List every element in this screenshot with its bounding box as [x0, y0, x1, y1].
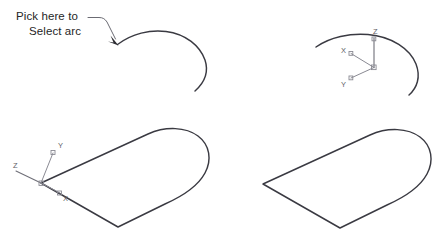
callout-leader-group: [88, 18, 119, 46]
ucs-z-axis-line-bl: [16, 171, 41, 183]
diagram-canvas: Pick here to Select arc X Y Z Y Z X: [0, 0, 444, 245]
callout-line-2: Select arc: [29, 24, 81, 38]
ucs-icon-bottom-left[interactable]: [16, 151, 62, 196]
top-left-arc-group: [118, 31, 207, 91]
open-arc-top-right[interactable]: [316, 34, 418, 95]
bottom-right-profile-group: [263, 130, 431, 228]
ucs-label-z-top-right: Z: [373, 27, 378, 36]
callout-line-1: Pick here to: [16, 9, 78, 23]
top-right-arc-group: [316, 34, 418, 95]
ucs-label-x-bottom-left: X: [63, 194, 68, 203]
ucs-x-axis-line-tr: [351, 54, 374, 68]
bottom-left-profile-group: [41, 129, 209, 227]
closed-profile-bottom-right[interactable]: [263, 130, 431, 228]
ucs-label-y-bottom-left: Y: [58, 141, 63, 150]
callout-leader-line: [88, 18, 116, 40]
ucs-y-axis-line-tr: [351, 68, 374, 79]
ucs-icon-top-right[interactable]: [349, 37, 376, 80]
closed-profile-bottom-left[interactable]: [41, 129, 209, 227]
open-arc-top-left[interactable]: [118, 31, 207, 91]
ucs-label-x-top-right: X: [341, 46, 346, 55]
ucs-label-y-top-right: Y: [341, 80, 346, 89]
ucs-label-z-bottom-left: Z: [13, 161, 18, 170]
arrow-icon: [108, 36, 119, 46]
